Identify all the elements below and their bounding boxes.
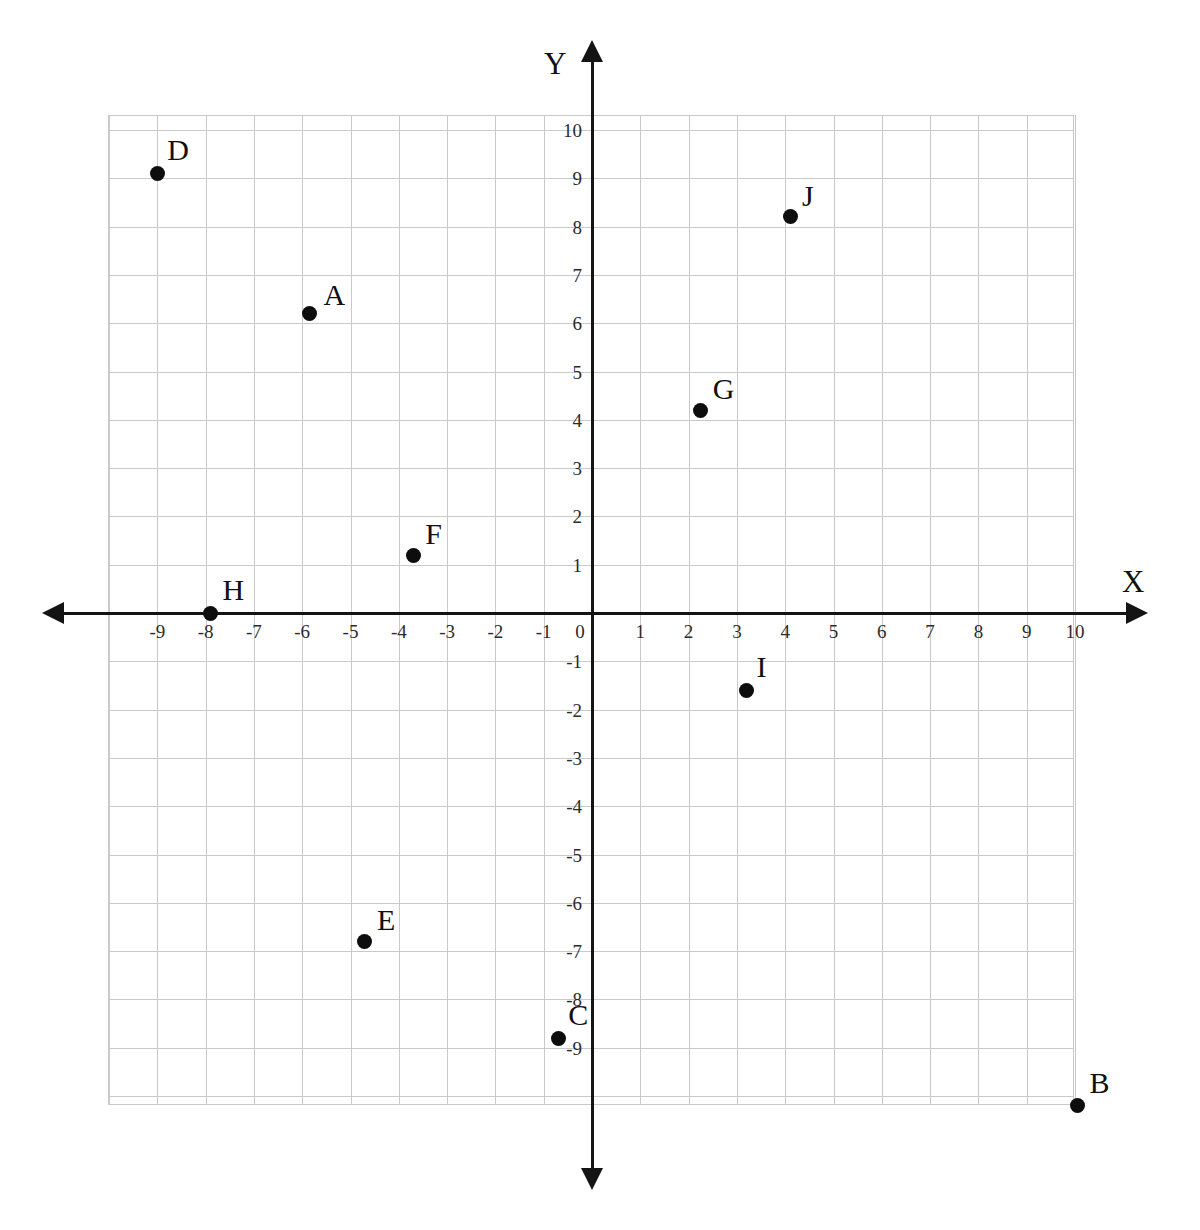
gridline-vertical bbox=[737, 115, 738, 1105]
y-tick-label: 9 bbox=[573, 169, 583, 188]
y-axis-label: Y bbox=[544, 48, 566, 79]
gridline-vertical bbox=[351, 115, 352, 1105]
x-tick-label: 10 bbox=[1066, 622, 1085, 641]
data-point-label-c: C bbox=[568, 1000, 588, 1030]
gridline-vertical bbox=[399, 115, 400, 1105]
x-tick-label: 4 bbox=[780, 622, 790, 641]
data-point-label-j: J bbox=[802, 181, 814, 211]
y-tick-label: 2 bbox=[573, 507, 583, 526]
x-tick-label: 8 bbox=[974, 622, 984, 641]
gridline-vertical bbox=[544, 115, 545, 1105]
x-axis-label: X bbox=[1122, 566, 1144, 597]
gridline-vertical bbox=[834, 115, 835, 1105]
y-tick-label: -6 bbox=[566, 893, 582, 912]
y-tick-label: 5 bbox=[573, 362, 583, 381]
gridline-vertical bbox=[882, 115, 883, 1105]
y-axis-up-arrow-icon bbox=[581, 40, 603, 62]
gridline-vertical bbox=[689, 115, 690, 1105]
data-point-d bbox=[150, 166, 165, 181]
data-point-label-f: F bbox=[425, 519, 442, 549]
y-tick-label: -3 bbox=[566, 748, 582, 767]
data-point-j bbox=[783, 209, 798, 224]
data-point-h bbox=[203, 606, 218, 621]
data-point-label-i: I bbox=[757, 652, 767, 682]
data-point-c bbox=[551, 1031, 566, 1046]
data-point-g bbox=[693, 403, 708, 418]
data-point-i bbox=[739, 683, 754, 698]
gridline-vertical bbox=[302, 115, 303, 1105]
y-axis-down-arrow-icon bbox=[581, 1168, 603, 1190]
gridline-vertical bbox=[495, 115, 496, 1105]
gridline-vertical bbox=[1075, 115, 1076, 1105]
coordinate-plane: X Y -9-8-7-6-5-4-3-2-1012345678910 10987… bbox=[0, 0, 1200, 1230]
x-axis-line bbox=[62, 612, 1128, 615]
x-tick-label: 2 bbox=[684, 622, 694, 641]
y-tick-label: -4 bbox=[566, 797, 582, 816]
x-tick-label: -6 bbox=[294, 622, 310, 641]
y-tick-label: 10 bbox=[563, 121, 582, 140]
y-tick-label: -5 bbox=[566, 845, 582, 864]
x-tick-label: -5 bbox=[343, 622, 359, 641]
x-tick-label: 6 bbox=[877, 622, 887, 641]
gridline-vertical bbox=[254, 115, 255, 1105]
gridline-vertical bbox=[640, 115, 641, 1105]
gridline-vertical bbox=[157, 115, 158, 1105]
y-tick-label: 4 bbox=[573, 410, 583, 429]
x-tick-label: 5 bbox=[829, 622, 839, 641]
data-point-label-e: E bbox=[377, 905, 395, 935]
x-axis-right-arrow-icon bbox=[1126, 602, 1148, 624]
y-tick-label: -1 bbox=[566, 652, 582, 671]
gridline-vertical bbox=[978, 115, 979, 1105]
gridline-vertical bbox=[109, 115, 110, 1105]
x-tick-label: -9 bbox=[149, 622, 165, 641]
gridline-vertical bbox=[930, 115, 931, 1105]
data-point-label-g: G bbox=[713, 374, 735, 404]
data-point-label-h: H bbox=[222, 575, 244, 605]
x-tick-label: 9 bbox=[1022, 622, 1032, 641]
data-point-label-a: A bbox=[323, 280, 345, 310]
data-point-b bbox=[1070, 1098, 1085, 1113]
x-tick-label: -1 bbox=[536, 622, 552, 641]
y-tick-label: 1 bbox=[573, 555, 583, 574]
x-tick-label: -7 bbox=[246, 622, 262, 641]
y-tick-label: -2 bbox=[566, 700, 582, 719]
gridline-vertical bbox=[447, 115, 448, 1105]
gridline-vertical bbox=[1027, 115, 1028, 1105]
y-tick-label: 7 bbox=[573, 265, 583, 284]
y-tick-label: 6 bbox=[573, 314, 583, 333]
data-point-label-b: B bbox=[1089, 1068, 1109, 1098]
y-tick-label: -7 bbox=[566, 942, 582, 961]
x-tick-label: 3 bbox=[732, 622, 742, 641]
y-tick-label: 3 bbox=[573, 459, 583, 478]
x-tick-label: -2 bbox=[487, 622, 503, 641]
y-tick-label: 8 bbox=[573, 217, 583, 236]
x-axis-left-arrow-icon bbox=[42, 602, 64, 624]
gridline-vertical bbox=[785, 115, 786, 1105]
x-tick-label: -3 bbox=[439, 622, 455, 641]
x-tick-label: -4 bbox=[391, 622, 407, 641]
data-point-label-d: D bbox=[167, 135, 189, 165]
x-tick-label: 7 bbox=[925, 622, 935, 641]
y-axis-line bbox=[591, 60, 594, 1170]
x-tick-label: 1 bbox=[636, 622, 646, 641]
x-tick-label: 0 bbox=[575, 622, 585, 641]
data-point-a bbox=[302, 306, 317, 321]
data-point-f bbox=[406, 548, 421, 563]
x-tick-label: -8 bbox=[198, 622, 214, 641]
y-tick-label: -9 bbox=[566, 1038, 582, 1057]
